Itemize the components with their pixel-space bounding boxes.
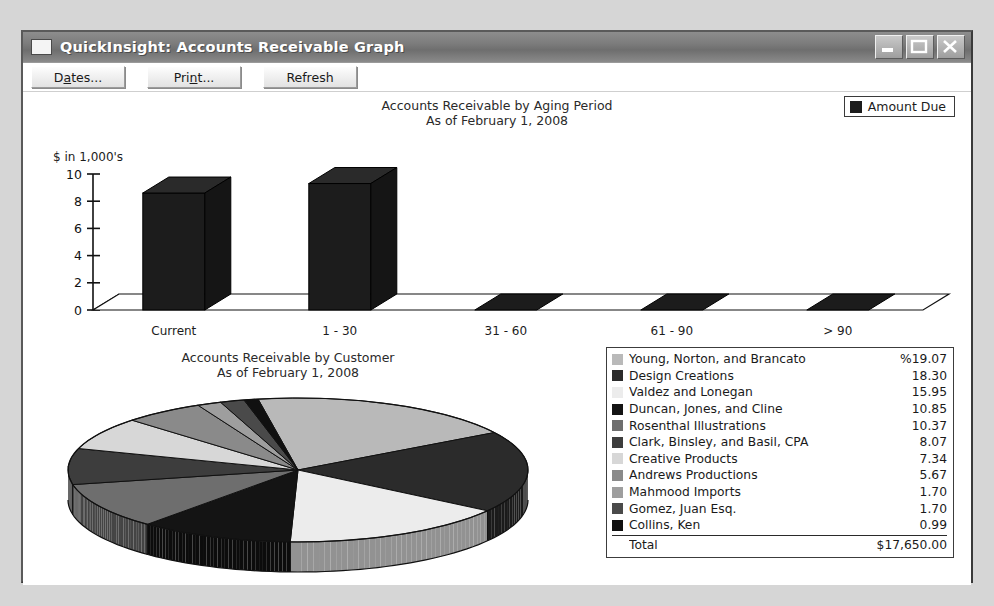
close-button[interactable] — [937, 35, 965, 59]
refresh-button[interactable]: Refresh — [263, 66, 357, 88]
customer-legend-table: Young, Norton, and Brancato%19.07Design … — [606, 347, 954, 558]
amount-due-swatch — [850, 101, 862, 113]
customer-legend-total-row: Total $17,650.00 — [612, 535, 947, 554]
customer-legend-row: Rosenthal Illustrations10.37 — [612, 417, 947, 434]
customer-legend-row: Andrews Productions5.67 — [612, 467, 947, 484]
customer-color-swatch — [612, 420, 623, 431]
window-title: QuickInsight: Accounts Receivable Graph — [60, 39, 405, 55]
customer-percent: 15.95 — [912, 385, 947, 399]
customer-legend-row: Duncan, Jones, and Cline10.85 — [612, 401, 947, 418]
window-controls — [875, 35, 965, 59]
x-axis-label: > 90 — [788, 324, 888, 338]
customer-name: Young, Norton, and Brancato — [629, 352, 900, 366]
bar-chart-svg: 0246810 — [23, 162, 975, 337]
customer-percent: 10.37 — [912, 419, 947, 433]
refresh-button-label: Refresh — [286, 70, 333, 85]
customer-name: Gomez, Juan Esq. — [629, 502, 920, 516]
customer-color-swatch — [612, 487, 623, 498]
pie-chart-svg — [48, 392, 548, 577]
total-label: Total — [629, 538, 877, 552]
page-background: QuickInsight: Accounts Receivable Graph … — [0, 0, 994, 606]
application-window: QuickInsight: Accounts Receivable Graph … — [21, 30, 973, 583]
minimize-button[interactable] — [875, 35, 903, 59]
x-axis-label: 61 - 90 — [622, 324, 722, 338]
customer-name: Duncan, Jones, and Cline — [629, 402, 912, 416]
customer-color-swatch — [612, 503, 623, 514]
customer-percent: 8.07 — [920, 435, 947, 449]
bar-chart-title: Accounts Receivable by Aging Period As o… — [23, 98, 971, 128]
customer-legend-row: Creative Products7.34 — [612, 451, 947, 468]
bar-chart: 0246810 — [23, 162, 971, 327]
customer-legend-row: Clark, Binsley, and Basil, CPA8.07 — [612, 434, 947, 451]
dates-button-label: Dates... — [54, 70, 102, 85]
x-axis-label: 1 - 30 — [290, 324, 390, 338]
customer-legend-row: Gomez, Juan Esq.1.70 — [612, 500, 947, 517]
svg-text:0: 0 — [74, 303, 82, 318]
maximize-button[interactable] — [906, 35, 934, 59]
bar-chart-title-line2: As of February 1, 2008 — [23, 113, 971, 128]
customer-legend-row: Young, Norton, and Brancato%19.07 — [612, 351, 947, 368]
customer-name: Rosenthal Illustrations — [629, 419, 912, 433]
customer-color-swatch — [612, 453, 623, 464]
print-button[interactable]: Print... — [147, 66, 241, 88]
customer-name: Mahmood Imports — [629, 485, 920, 499]
print-button-label: Print... — [174, 70, 215, 85]
pie-chart — [48, 392, 548, 577]
customer-percent: 18.30 — [912, 369, 947, 383]
pie-chart-title-line1: Accounts Receivable by Customer — [53, 350, 523, 365]
customer-legend-rows: Young, Norton, and Brancato%19.07Design … — [612, 351, 947, 534]
customer-color-swatch — [612, 370, 623, 381]
customer-legend-row: Collins, Ken0.99 — [612, 517, 947, 534]
customer-legend-row: Valdez and Lonegan15.95 — [612, 384, 947, 401]
customer-percent: 1.70 — [920, 485, 947, 499]
customer-name: Creative Products — [629, 452, 920, 466]
customer-name: Andrews Productions — [629, 468, 920, 482]
svg-text:4: 4 — [74, 248, 82, 263]
customer-legend-row: Design Creations18.30 — [612, 368, 947, 385]
customer-percent: 10.85 — [912, 402, 947, 416]
customer-name: Valdez and Lonegan — [629, 385, 912, 399]
customer-name: Design Creations — [629, 369, 912, 383]
pie-chart-title: Accounts Receivable by Customer As of Fe… — [53, 350, 523, 380]
customer-name: Collins, Ken — [629, 518, 920, 532]
customer-percent: %19.07 — [900, 352, 947, 366]
svg-text:6: 6 — [74, 221, 82, 236]
customer-percent: 0.99 — [920, 518, 947, 532]
svg-text:10: 10 — [66, 167, 82, 182]
svg-text:2: 2 — [74, 275, 82, 290]
amount-due-legend: Amount Due — [844, 96, 955, 117]
customer-color-swatch — [612, 470, 623, 481]
x-axis-label: Current — [124, 324, 224, 338]
customer-color-swatch — [612, 404, 623, 415]
customer-color-swatch — [612, 437, 623, 448]
bar-chart-title-line1: Accounts Receivable by Aging Period — [23, 98, 971, 113]
customer-percent: 1.70 — [920, 502, 947, 516]
customer-color-swatch — [612, 387, 623, 398]
toolbar: Dates... Print... Refresh — [23, 63, 971, 92]
customer-percent: 7.34 — [920, 452, 947, 466]
total-swatch-placeholder — [612, 539, 623, 550]
customer-name: Clark, Binsley, and Basil, CPA — [629, 435, 920, 449]
total-value: $17,650.00 — [877, 538, 947, 552]
title-bar[interactable]: QuickInsight: Accounts Receivable Graph — [23, 32, 971, 63]
pie-chart-title-line2: As of February 1, 2008 — [53, 365, 523, 380]
dates-button[interactable]: Dates... — [31, 66, 125, 88]
x-axis-label: 31 - 60 — [456, 324, 556, 338]
window-icon — [31, 39, 52, 55]
customer-percent: 5.67 — [920, 468, 947, 482]
svg-text:8: 8 — [74, 194, 82, 209]
customer-legend-row: Mahmood Imports1.70 — [612, 484, 947, 501]
bar-chart-x-labels: Current1 - 3031 - 6061 - 90> 90 — [23, 324, 971, 342]
amount-due-label: Amount Due — [868, 99, 946, 114]
customer-color-swatch — [612, 354, 623, 365]
customer-color-swatch — [612, 520, 623, 531]
report-canvas: Accounts Receivable by Aging Period As o… — [23, 92, 971, 585]
